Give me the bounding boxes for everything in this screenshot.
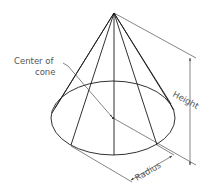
center-leader xyxy=(63,63,112,117)
cone-generators xyxy=(52,13,174,155)
height-dimension xyxy=(113,13,196,165)
center-label-line2: cone xyxy=(35,67,56,77)
radius-label: Radius xyxy=(133,160,163,183)
center-label-line1: Center of xyxy=(14,56,55,66)
height-label: Height xyxy=(171,89,201,111)
cone-diagram: Center of cone Height Radius xyxy=(0,0,213,192)
